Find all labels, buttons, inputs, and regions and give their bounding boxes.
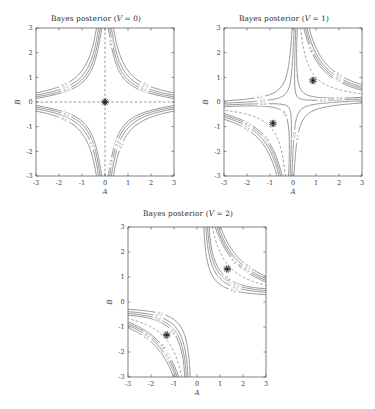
contour-label-text: 0.3 (320, 99, 326, 103)
y-tick-label: 2 (217, 49, 221, 57)
x-tick-label: 3 (172, 179, 176, 187)
mode-marker-asterisk (310, 77, 317, 84)
y-tick-label: -3 (214, 172, 220, 180)
contour-label: 0.4 (334, 96, 344, 100)
contour-line-level-0.1 (111, 13, 187, 95)
y-tick-label: 1 (121, 273, 125, 281)
panel-title-prefix-v0: Bayes posterior ( (51, 14, 117, 23)
contour-line-level-0.1 (293, 102, 375, 191)
x-tick-label: -3 (125, 380, 131, 388)
contour-line-level-0.3 (295, 13, 375, 100)
contour-label-text: 0.3 (260, 102, 266, 106)
y-tick-label: 2 (121, 248, 125, 256)
x-tick-label: -2 (148, 380, 154, 388)
x-tick-label: 1 (218, 380, 222, 388)
plot-area-v1: 0.10.10.10.10.20.20.20.20.30.30.30.30.40… (196, 14, 372, 198)
y-tick-label: 0 (121, 298, 125, 306)
contour-label-text: 0.2 (292, 132, 297, 138)
x-tick-label: -1 (171, 380, 177, 388)
x-tick-label: -2 (244, 179, 250, 187)
y-axis-label: B (105, 299, 114, 305)
y-tick-label: -3 (26, 172, 32, 180)
panel-title-v0: Bayes posterior (V = 0) (8, 14, 184, 23)
y-tick-label: -2 (118, 348, 124, 356)
contour-line-level-0.2 (291, 100, 375, 191)
contour-line-level-0.3 (212, 212, 280, 286)
contour-labels: 0.10.10.10.10.20.20.20.20.30.30.30.30.40… (141, 256, 253, 362)
x-tick-label: 3 (360, 179, 364, 187)
contour-line-level-0.4 (297, 17, 372, 98)
x-tick-label: -3 (33, 179, 39, 187)
y-tick-label: -1 (214, 123, 220, 131)
contour-label: 0.3 (258, 102, 268, 106)
contour-lines (114, 212, 280, 392)
y-tick-label: 1 (217, 74, 221, 82)
panel-bayes-posterior-v2: Bayes posterior (V = 2) 0.10.10.10.10.20… (100, 209, 276, 401)
y-tick-label: 3 (121, 223, 125, 231)
contour-group: 0.10.10.10.10.20.20.20.20.30.30.30.30.40… (210, 13, 375, 191)
x-tick-label: -2 (56, 179, 62, 187)
panel-title-v2: Bayes posterior (V = 2) (100, 209, 276, 218)
y-tick-label: -1 (26, 123, 32, 131)
contour-line-level-0.1 (210, 13, 293, 102)
contour-label: 0.4 (262, 133, 272, 144)
mode-marker-asterisk (163, 332, 170, 339)
mode-markers (163, 266, 230, 339)
panel-title-suffix-v2: = 2) (214, 209, 233, 218)
mode-markers (270, 77, 317, 126)
contour-line-level-0.4 (214, 106, 289, 187)
x-tick-label: -3 (221, 179, 227, 187)
panel-bayes-posterior-v0: Bayes posterior (V = 0) 0.10.10.10.10.20… (8, 14, 184, 198)
posterior-ridge-dashed (123, 222, 270, 382)
x-tick-label: -1 (267, 179, 273, 187)
contour-label: 0.3 (163, 351, 172, 362)
contour-label: 0.4 (280, 108, 289, 119)
contour-line-level-0.1 (203, 212, 279, 295)
contour-figure: Bayes posterior (V = 0) 0.10.10.10.10.20… (0, 0, 375, 409)
y-tick-label: 1 (29, 74, 33, 82)
mode-marker-asterisk (224, 266, 231, 273)
x-tick-label: 0 (103, 179, 107, 187)
y-axis-label: B (201, 99, 210, 105)
x-axis-label: A (101, 187, 107, 196)
contour-label: 0.4 (108, 37, 114, 48)
contour-line-level-0.1 (22, 13, 98, 95)
x-tick-label: 2 (241, 380, 245, 388)
panel-title-suffix-v1: = 1) (310, 14, 329, 23)
x-tick-label: 0 (195, 380, 199, 388)
y-tick-label: -3 (118, 373, 124, 381)
x-tick-label: 1 (314, 179, 318, 187)
panel-bayes-posterior-v1: Bayes posterior (V = 1) 0.10.10.10.10.20… (196, 14, 372, 198)
plot-area-v2: 0.10.10.10.10.20.20.20.20.30.30.30.30.40… (100, 209, 276, 401)
contour-line-level-0.2 (210, 13, 295, 104)
panel-title-v1: Bayes posterior (V = 1) (196, 14, 372, 23)
contour-label: 0.4 (229, 256, 239, 267)
contour-line-level-0.2 (205, 212, 279, 293)
y-tick-label: -1 (118, 323, 124, 331)
mode-marker-asterisk (270, 120, 277, 127)
plot-area-v0: 0.10.10.10.10.20.20.20.20.30.30.30.30.40… (8, 14, 184, 198)
contour-lines (210, 13, 375, 191)
y-tick-label: 0 (29, 98, 33, 106)
x-tick-label: 2 (149, 179, 153, 187)
y-tick-label: -2 (214, 148, 220, 156)
contour-labels: 0.10.10.10.10.20.20.20.20.30.30.30.30.40… (241, 44, 345, 144)
x-tick-label: 0 (291, 179, 295, 187)
y-tick-label: 2 (29, 49, 33, 57)
ridge-hyperbola-branch (219, 110, 285, 181)
contour-line-level-0.3 (207, 212, 279, 291)
x-tick-label: 3 (264, 380, 268, 388)
panel-title-suffix-v0: = 0) (122, 14, 141, 23)
contour-group: 0.10.10.10.10.20.20.20.20.30.30.30.30.40… (114, 212, 280, 392)
y-axis-label: B (13, 99, 22, 105)
contour-label: 0.4 (307, 44, 315, 55)
x-axis-label: A (193, 388, 199, 397)
contour-label-text: 0.4 (337, 96, 343, 100)
panel-title-prefix-v1: Bayes posterior ( (239, 14, 305, 23)
ridge-hyperbola-branch (300, 23, 366, 94)
x-tick-label: -1 (79, 179, 85, 187)
y-tick-label: 3 (29, 24, 33, 32)
axis-ticks: -3-2-10123-3-2-10123 (26, 24, 176, 186)
y-tick-label: 3 (217, 24, 221, 32)
x-tick-label: 2 (337, 179, 341, 187)
